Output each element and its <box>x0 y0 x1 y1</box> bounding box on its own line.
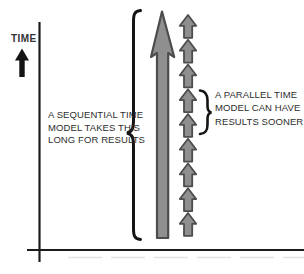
parallel-arrow <box>180 139 196 162</box>
sequential-tall-arrow <box>151 12 174 239</box>
sequential-annotation-line: LONG FOR RESULTS <box>48 134 145 147</box>
parallel-arrow <box>180 164 196 187</box>
diagram-graphics <box>0 0 304 274</box>
parallel-arrow <box>180 65 196 88</box>
sequential-annotation-line: A SEQUENTIAL TIME <box>48 109 145 122</box>
parallel-annotation: A PARALLEL TIME MODEL CAN HAVE RESULTS S… <box>215 88 303 128</box>
small-curly-brace <box>200 91 212 135</box>
parallel-arrow <box>180 188 196 211</box>
sequential-annotation: A SEQUENTIAL TIME MODEL TAKES THIS LONG … <box>48 109 145 147</box>
parallel-arrow <box>180 89 196 112</box>
parallel-annotation-line: MODEL CAN HAVE <box>215 101 303 114</box>
parallel-arrow <box>180 213 196 236</box>
time-axis-label: TIME <box>11 33 37 46</box>
parallel-arrow <box>180 114 196 137</box>
parallel-arrows-group <box>180 15 196 236</box>
diagram-canvas: TIME A SEQUENTIAL TIME MODEL TAKES THIS … <box>0 0 304 274</box>
parallel-arrow <box>180 40 196 63</box>
sequential-annotation-line: MODEL TAKES THIS <box>48 122 145 135</box>
parallel-arrow <box>180 15 196 38</box>
parallel-annotation-line: RESULTS SOONER <box>215 115 303 128</box>
parallel-annotation-line: A PARALLEL TIME <box>215 88 303 101</box>
time-up-arrow-icon <box>15 49 29 78</box>
